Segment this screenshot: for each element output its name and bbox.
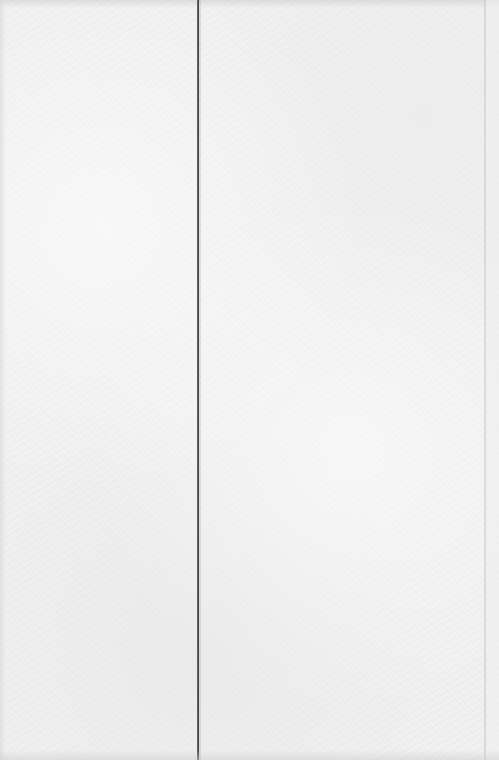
bottom-edge-shadow [0, 750, 499, 760]
right-column [201, 0, 484, 760]
blank-paper-page [0, 0, 499, 760]
right-margin [486, 0, 499, 760]
left-column [0, 0, 197, 760]
